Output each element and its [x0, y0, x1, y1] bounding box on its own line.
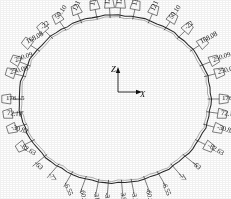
callout-value: 121 [105, 0, 113, 5]
callout-value: -3.33 [103, 192, 112, 199]
callout-value: -3.33 [129, 191, 139, 199]
figure-canvas: -3.333.97-31.97-3.33-60.00-60.00-6.55-6.… [0, 0, 231, 199]
callout-value: 72.10 [7, 110, 23, 119]
z-axis-label: Z [111, 64, 116, 74]
callout-value: 72.10 [220, 110, 231, 119]
z-axis-arrowhead [116, 67, 120, 73]
callout-value: 176.15 [222, 95, 231, 102]
x-axis-label: X [140, 89, 145, 99]
callout-value: 3.97 [118, 192, 127, 199]
callout-value: 176.15 [6, 95, 24, 102]
callout-value: 121 [116, 0, 124, 5]
coordinate-axis-indicator [116, 67, 142, 94]
